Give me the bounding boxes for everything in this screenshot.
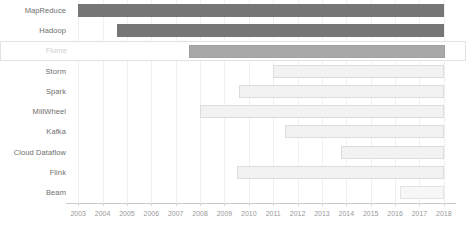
row-label-hadoop: Hadoop: [0, 26, 66, 35]
axis-tick: [419, 203, 420, 206]
axis-tick-label: 2008: [192, 210, 208, 217]
gantt-bar-beam[interactable]: [400, 186, 444, 199]
axis-tick-label: 2005: [119, 210, 135, 217]
gantt-bar-millwheel[interactable]: [200, 105, 444, 118]
axis-tick-label: 2014: [339, 210, 355, 217]
axis-tick: [371, 203, 372, 206]
axis-tick-label: 2018: [436, 210, 452, 217]
chart-row[interactable]: Beam: [0, 183, 466, 203]
axis-tick: [249, 203, 250, 206]
gantt-bar-flume[interactable]: [189, 45, 445, 58]
chart-row[interactable]: Kafka: [0, 122, 466, 142]
gantt-bar-spark[interactable]: [239, 85, 444, 98]
axis-tick: [224, 203, 225, 206]
row-label-millwheel: MillWheel: [0, 107, 66, 116]
axis-tick: [127, 203, 128, 206]
row-label-cloud-dataflow: Cloud Dataflow: [0, 148, 66, 157]
axis-tick-label: 2016: [387, 210, 403, 217]
axis-tick: [298, 203, 299, 206]
axis-tick-label: 2015: [363, 210, 379, 217]
gantt-bar-mapreduce[interactable]: [78, 4, 444, 17]
x-axis-line: [66, 203, 456, 204]
chart-rows: MapReduceHadoopFlumeStormSparkMillWheelK…: [0, 0, 466, 203]
chart-row[interactable]: Flume: [0, 41, 466, 61]
axis-tick: [273, 203, 274, 206]
axis-tick: [103, 203, 104, 206]
chart-row[interactable]: MillWheel: [0, 102, 466, 122]
row-label-kafka: Kafka: [0, 127, 66, 136]
axis-tick: [200, 203, 201, 206]
row-label-spark: Spark: [0, 87, 66, 96]
axis-tick: [78, 203, 79, 206]
axis-tick-label: 2004: [95, 210, 111, 217]
row-label-mapreduce: MapReduce: [0, 6, 66, 15]
row-label-storm: Storm: [0, 67, 66, 76]
axis-tick-label: 2007: [168, 210, 184, 217]
axis-tick-label: 2011: [266, 210, 281, 217]
plot-area: MapReduceHadoopFlumeStormSparkMillWheelK…: [0, 0, 466, 203]
axis-tick-label: 2003: [70, 210, 86, 217]
axis-tick: [176, 203, 177, 206]
chart-row[interactable]: Spark: [0, 81, 466, 101]
axis-tick: [151, 203, 152, 206]
chart-row[interactable]: Hadoop: [0, 20, 466, 40]
chart-row[interactable]: Flink: [0, 162, 466, 182]
axis-tick: [395, 203, 396, 206]
gantt-bar-cloud-dataflow[interactable]: [341, 146, 443, 159]
gantt-bar-storm[interactable]: [273, 65, 444, 78]
axis-tick-label: 2010: [241, 210, 257, 217]
axis-tick-label: 2012: [290, 210, 306, 217]
row-label-flume: Flume: [1, 46, 67, 55]
chart-row[interactable]: MapReduce: [0, 0, 466, 20]
axis-tick-label: 2013: [314, 210, 330, 217]
axis-tick-label: 2006: [144, 210, 160, 217]
gantt-bar-flink[interactable]: [237, 166, 444, 179]
axis-tick: [444, 203, 445, 206]
row-label-flink: Flink: [0, 168, 66, 177]
axis-tick-label: 2009: [217, 210, 233, 217]
gantt-bar-hadoop[interactable]: [117, 24, 444, 37]
row-label-beam: Beam: [0, 188, 66, 197]
chart-row[interactable]: Storm: [0, 61, 466, 81]
axis-tick: [322, 203, 323, 206]
axis-tick: [346, 203, 347, 206]
gantt-bar-kafka[interactable]: [285, 125, 443, 138]
x-axis: 2003200420052006200720082009201020112012…: [0, 203, 466, 239]
axis-tick-label: 2017: [412, 210, 428, 217]
gantt-chart: MapReduceHadoopFlumeStormSparkMillWheelK…: [0, 0, 466, 239]
chart-row[interactable]: Cloud Dataflow: [0, 142, 466, 162]
